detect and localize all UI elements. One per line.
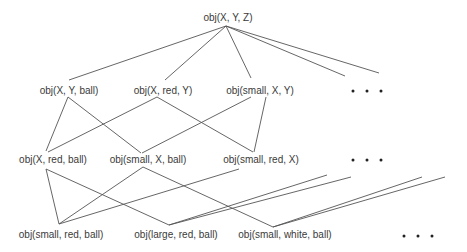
edge-n1c-n2c: [254, 97, 266, 152]
dot-icon: [380, 90, 383, 93]
edge-more-n3c: [273, 177, 445, 227]
edge-root-n1b: [165, 26, 226, 80]
edge-root-more: [226, 26, 345, 76]
edge-more-n3b: [169, 177, 351, 225]
dot-icon: [417, 235, 420, 238]
lattice-diagram: obj(X, Y, Z) obj(X, Y, ball) obj(X, red,…: [0, 0, 467, 252]
edge-n1a-n2b: [68, 97, 141, 153]
edge-n2a-n3a: [46, 169, 59, 224]
ellipsis-level-2: [352, 159, 383, 162]
node-root: obj(X, Y, Z): [203, 13, 252, 23]
edge-n2b-n3a: [59, 167, 143, 224]
edge-n2a-n3b: [46, 169, 169, 225]
edge-n1a-n2a: [46, 97, 68, 151]
edge-n1b-n2c: [157, 97, 253, 152]
edge-more-n3c: [273, 177, 422, 227]
node-obj-small-x-ball: obj(small, X, ball): [110, 155, 187, 165]
dot-icon: [431, 235, 434, 238]
edge-n2b-n3c: [143, 167, 273, 227]
edge-n1c-n2b: [142, 97, 251, 153]
dot-icon: [366, 90, 369, 93]
node-obj-x-red-ball: obj(X, red, ball): [19, 155, 87, 165]
edge-root-n1c: [226, 26, 251, 78]
ellipsis-level-1: [352, 90, 383, 93]
ellipsis-level-3: [403, 235, 434, 238]
edge-layer: [0, 0, 467, 252]
node-obj-x-y-ball: obj(X, Y, ball): [40, 86, 99, 96]
node-obj-small-red-x: obj(small, red, X): [223, 155, 299, 165]
node-obj-large-red-ball: obj(large, red, ball): [134, 230, 217, 240]
node-obj-small-red-ball: obj(small, red, ball): [19, 230, 103, 240]
node-obj-small-white-ball: obj(small, white, ball): [238, 230, 331, 240]
node-obj-x-red-y: obj(X, red, Y): [134, 86, 193, 96]
dot-icon: [380, 159, 383, 162]
dot-icon: [352, 159, 355, 162]
dot-icon: [403, 235, 406, 238]
dot-icon: [366, 159, 369, 162]
node-obj-small-x-y: obj(small, X, Y): [226, 86, 294, 96]
dot-icon: [352, 90, 355, 93]
edge-root-more: [226, 26, 379, 73]
edge-root-n1a: [69, 26, 226, 80]
edge-more-n3b: [169, 175, 327, 225]
